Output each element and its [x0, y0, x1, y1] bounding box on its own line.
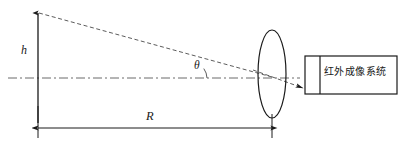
angle-label: θ — [194, 60, 200, 72]
upper-ray-dashed — [39, 13, 272, 77]
range-label: R — [146, 110, 154, 123]
object-height-label: h — [21, 44, 27, 56]
optical-ray-diagram: h R θ 红外成像系统 — [0, 0, 401, 147]
imaging-system-label: 红外成像系统 — [324, 67, 386, 77]
angle-arc — [204, 69, 207, 78]
image-ray-dashed — [253, 70, 303, 88]
